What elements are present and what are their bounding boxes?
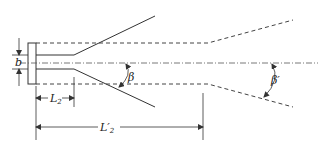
label-L2-prime: L′2 [99,121,115,135]
label-b: b [15,56,22,69]
dimension-L2 [36,77,74,140]
jet-diagram: b L2 L′2 β β′ [0,0,325,152]
label-L2: L2 [49,92,62,106]
jet-boundary-dashed [36,20,293,107]
label-beta: β [127,71,134,84]
nozzle-plate [28,43,36,84]
nozzle-walls [36,55,74,69]
jet-boundary-solid [74,16,155,107]
label-beta-prime: β′ [270,74,280,87]
